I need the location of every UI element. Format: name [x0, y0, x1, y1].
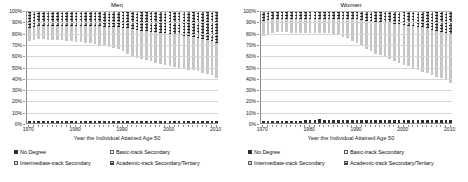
y-tick — [257, 11, 259, 12]
bar-segment — [183, 36, 186, 69]
gridline — [27, 45, 218, 46]
bar-segment — [398, 63, 401, 120]
x-tick — [408, 125, 409, 127]
bar-segment — [407, 120, 410, 123]
legend-item-academic-track: Academic-track Secondary/Tertiary — [344, 160, 454, 166]
bar-segment — [145, 121, 148, 123]
bar-segment — [365, 49, 368, 121]
y-tick-label: 10% — [12, 110, 22, 115]
bar-segment — [318, 19, 321, 33]
x-tick — [136, 125, 137, 127]
panel-title-women: Women — [234, 1, 468, 9]
bar-segment — [122, 11, 125, 28]
legend-label-academic-track: Academic-track Secondary/Tertiary — [116, 160, 200, 166]
x-tick — [164, 125, 165, 127]
x-tick — [61, 125, 62, 127]
bar-segment — [131, 121, 134, 123]
bar-segment — [374, 120, 377, 123]
bar-segment — [412, 11, 415, 26]
bar-segment — [42, 121, 45, 123]
bar-segment — [449, 120, 452, 123]
bar-segment — [164, 121, 167, 123]
x-tick — [192, 125, 193, 127]
legend-swatch-intermediate-track-icon — [14, 161, 18, 165]
x-tick — [286, 125, 287, 127]
bar-segment — [84, 43, 87, 121]
bar-segment — [89, 11, 92, 26]
bar-segment — [314, 11, 317, 19]
y-tick-label: 70% — [12, 42, 22, 47]
bar-segment — [75, 42, 78, 121]
x-tick — [89, 125, 90, 127]
bar-segment — [65, 11, 68, 26]
bar-segment — [304, 33, 307, 120]
bar-segment — [37, 26, 40, 39]
x-tick — [445, 125, 446, 127]
y-tick-label: 0% — [249, 122, 256, 127]
bar-segment — [47, 121, 50, 123]
bar-segment — [103, 27, 106, 46]
x-tick — [412, 125, 413, 127]
legend-item-no-degree: No Degree — [14, 149, 110, 155]
x-tick — [80, 125, 81, 127]
x-tick — [328, 125, 329, 127]
x-tick — [216, 125, 217, 127]
x-tick — [440, 125, 441, 127]
bar-segment — [33, 11, 36, 27]
x-tick — [379, 125, 380, 127]
x-tick — [347, 125, 348, 127]
bar-segment — [356, 11, 359, 19]
bar-segment — [309, 33, 312, 120]
bar-segment — [431, 11, 434, 29]
y-tick-label: 40% — [12, 76, 22, 81]
x-tick — [431, 125, 432, 127]
x-tick — [169, 125, 170, 127]
x-tick — [389, 125, 390, 127]
bar-segment — [187, 36, 190, 70]
y-tick-label: 70% — [246, 42, 256, 47]
legend-label-intermediate-track: Intermediate-track Secondary — [254, 160, 325, 166]
y-tick — [257, 90, 259, 91]
y-tick-label: 100% — [243, 9, 256, 14]
bar-segment — [136, 121, 139, 123]
x-tick — [276, 125, 277, 127]
bar-segment — [122, 28, 125, 52]
bar-segment — [356, 120, 359, 123]
x-tick — [342, 125, 343, 127]
y-axis-women: 0%10%20%30%40%50%60%70%80%90%100% — [234, 11, 259, 124]
bar-segment — [159, 33, 162, 64]
bar-segment — [28, 121, 31, 123]
bar-segment — [281, 11, 284, 19]
bar-segment — [126, 54, 129, 121]
bar-segment — [290, 121, 293, 123]
bar-segment — [328, 19, 331, 33]
x-tick — [127, 125, 128, 127]
bar-segment — [323, 120, 326, 123]
y-tick — [257, 22, 259, 23]
bar-segment — [412, 26, 415, 68]
bar-segment — [346, 11, 349, 19]
bar-segment — [337, 11, 340, 19]
bar-segment — [178, 121, 181, 123]
bar-segment — [299, 121, 302, 123]
bar-segment — [323, 11, 326, 19]
bar-segment — [323, 19, 326, 33]
x-tick — [141, 125, 142, 127]
x-tick — [370, 125, 371, 127]
bar-segment — [122, 121, 125, 123]
legend-item-no-degree: No Degree — [248, 149, 344, 155]
bar-segment — [318, 11, 321, 19]
bar-segment — [295, 33, 298, 121]
bar-segment — [215, 121, 218, 123]
legend-swatch-no-degree-icon — [14, 150, 18, 154]
gridline — [27, 22, 218, 23]
bar-segment — [201, 11, 204, 39]
bar-segment — [374, 22, 377, 54]
bar-segment — [388, 120, 391, 123]
bar-segment — [159, 121, 162, 123]
x-tick — [337, 125, 338, 127]
bar-segment — [426, 11, 429, 28]
x-tick — [33, 125, 34, 127]
bar-segment — [145, 11, 148, 31]
gridline — [27, 11, 218, 12]
